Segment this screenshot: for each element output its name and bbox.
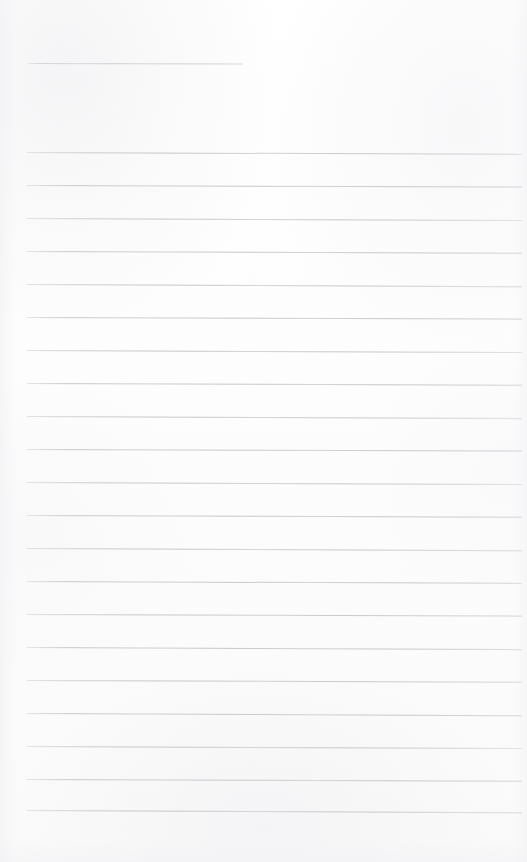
ruled-line bbox=[27, 416, 522, 419]
ruled-line bbox=[27, 779, 522, 782]
ruled-line bbox=[27, 284, 522, 287]
ruled-line bbox=[27, 383, 522, 386]
ruled-line bbox=[27, 482, 522, 485]
ruled-line bbox=[27, 449, 522, 452]
ruled-line bbox=[27, 185, 522, 188]
notepaper-page bbox=[0, 0, 527, 862]
ruled-line bbox=[27, 810, 522, 813]
ruled-line bbox=[27, 350, 522, 353]
ruled-line bbox=[27, 647, 522, 650]
ruled-line bbox=[27, 152, 522, 155]
ruled-line bbox=[27, 746, 522, 749]
ruled-line bbox=[27, 251, 522, 254]
ruled-line bbox=[27, 581, 522, 584]
ruled-line bbox=[27, 614, 522, 617]
ruled-line bbox=[27, 317, 522, 320]
ruled-line bbox=[27, 218, 522, 221]
ruled-line bbox=[27, 713, 522, 716]
scan-edge-shading bbox=[0, 0, 527, 862]
header-rule bbox=[27, 63, 243, 64]
ruled-line bbox=[27, 515, 522, 518]
ruled-line bbox=[27, 548, 522, 551]
ruled-line bbox=[27, 680, 522, 683]
